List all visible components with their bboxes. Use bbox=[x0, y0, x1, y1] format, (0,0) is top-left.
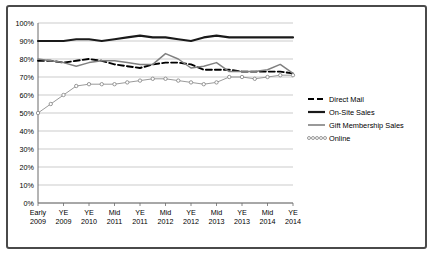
x-axis-tick-label: YE bbox=[59, 208, 69, 217]
series-marker-online bbox=[164, 77, 167, 80]
x-axis-tick-label: 2009 bbox=[30, 217, 46, 226]
y-axis-tick-label: 40% bbox=[20, 127, 35, 136]
y-axis-tick-label: 90% bbox=[20, 37, 35, 46]
x-axis-tick-label: 2011 bbox=[107, 217, 122, 226]
x-axis-tick-label: YE bbox=[237, 208, 247, 217]
series-marker-online bbox=[177, 79, 180, 82]
x-axis-tick-label: 2009 bbox=[56, 217, 72, 226]
x-axis-tick-label: YE bbox=[288, 208, 298, 217]
x-axis-tick-label: 2010 bbox=[81, 217, 97, 226]
x-axis-tick-label: YE bbox=[186, 208, 196, 217]
series-marker-online bbox=[62, 93, 65, 96]
y-axis-tick-label: 80% bbox=[20, 55, 35, 64]
x-axis-tick-label: Mid bbox=[160, 208, 172, 217]
legend-swatch-dotted-gray bbox=[312, 137, 315, 140]
x-axis-tick-label: 2012 bbox=[183, 217, 199, 226]
series-marker-online bbox=[36, 111, 39, 114]
legend-swatch-dotted-gray bbox=[308, 137, 311, 140]
legend-item: Online bbox=[308, 134, 351, 143]
y-axis-tick-label: 60% bbox=[20, 91, 35, 100]
y-axis-tick-label: 20% bbox=[20, 163, 35, 172]
y-axis-tick-label: 50% bbox=[20, 109, 35, 118]
line-chart: 0%10%20%30%40%50%60%70%80%90%100%Early20… bbox=[8, 7, 425, 247]
y-axis-tick-label: 0% bbox=[24, 199, 35, 208]
legend-item: Gift Membership Sales bbox=[308, 121, 404, 130]
series-marker-online bbox=[228, 75, 231, 78]
legend-item: On-Site Sales bbox=[308, 108, 375, 117]
series-marker-online bbox=[253, 77, 256, 80]
chart-frame: 0%10%20%30%40%50%60%70%80%90%100%Early20… bbox=[6, 5, 427, 249]
x-axis-tick-label: YE bbox=[135, 208, 145, 217]
series-marker-online bbox=[202, 83, 205, 86]
series-marker-online bbox=[113, 83, 116, 86]
x-axis-tick-label: 2014 bbox=[260, 217, 276, 226]
x-axis-tick-label: 2013 bbox=[209, 217, 225, 226]
x-axis-tick-label: 2012 bbox=[158, 217, 174, 226]
series-marker-online bbox=[291, 74, 294, 77]
series-marker-online bbox=[279, 74, 282, 77]
y-axis-tick-label: 100% bbox=[16, 19, 35, 28]
chart-plot-area: 0%10%20%30%40%50%60%70%80%90%100%Early20… bbox=[8, 7, 425, 247]
series-marker-online bbox=[240, 75, 243, 78]
series-marker-online bbox=[126, 81, 129, 84]
legend-label: Online bbox=[329, 134, 350, 143]
legend-label: Gift Membership Sales bbox=[329, 121, 404, 130]
x-axis-tick-label: Mid bbox=[109, 208, 121, 217]
legend-item: Direct Mail bbox=[308, 95, 364, 104]
x-axis-tick-label: 2013 bbox=[234, 217, 250, 226]
series-marker-online bbox=[151, 77, 154, 80]
series-marker-online bbox=[75, 84, 78, 87]
x-axis-tick-label: YE bbox=[84, 208, 94, 217]
x-axis-tick-label: Early bbox=[30, 208, 47, 217]
x-axis-tick-label: 2011 bbox=[132, 217, 147, 226]
legend-label: Direct Mail bbox=[329, 95, 364, 104]
legend-swatch-dotted-gray bbox=[320, 137, 323, 140]
x-axis-tick-label: Mid bbox=[211, 208, 223, 217]
series-marker-online bbox=[87, 83, 90, 86]
legend-swatch-dotted-gray bbox=[316, 137, 319, 140]
series-marker-online bbox=[100, 83, 103, 86]
series-marker-online bbox=[49, 102, 52, 105]
y-axis-tick-label: 10% bbox=[20, 181, 35, 190]
legend-label: On-Site Sales bbox=[329, 108, 375, 117]
x-axis-tick-label: Mid bbox=[262, 208, 274, 217]
x-axis-tick-label: 2014 bbox=[285, 217, 301, 226]
legend-swatch-dotted-gray bbox=[324, 137, 327, 140]
series-marker-online bbox=[138, 79, 141, 82]
y-axis-tick-label: 30% bbox=[20, 145, 35, 154]
series-marker-online bbox=[215, 81, 218, 84]
series-marker-online bbox=[266, 75, 269, 78]
series-marker-online bbox=[189, 81, 192, 84]
y-axis-tick-label: 70% bbox=[20, 73, 35, 82]
